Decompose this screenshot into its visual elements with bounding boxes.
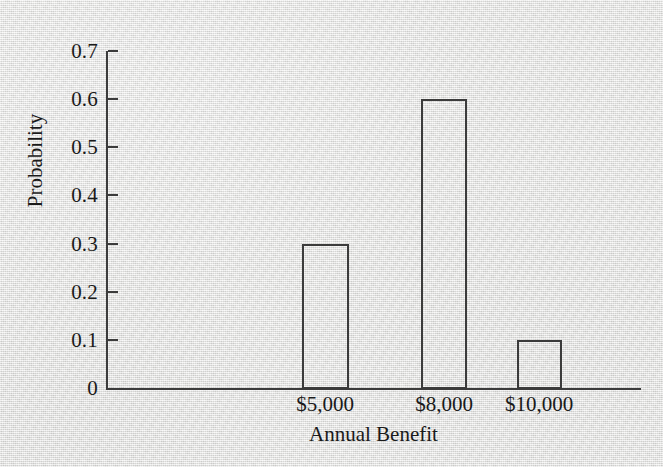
y-axis-tick-label: 0.6	[40, 89, 98, 110]
bar	[302, 244, 349, 389]
y-axis-tick	[108, 339, 118, 341]
y-axis-tick	[108, 194, 118, 196]
bar	[517, 340, 562, 389]
x-axis-tick-label: $5,000	[296, 394, 354, 415]
y-axis-title: Probability	[25, 66, 46, 256]
y-axis-tick	[108, 50, 118, 52]
y-axis-tick-label: 0.5	[40, 137, 98, 158]
y-axis-tick-label: 0.1	[40, 329, 98, 350]
x-axis-tick-label: $8,000	[415, 394, 473, 415]
y-axis-tick-label: 0.2	[40, 281, 98, 302]
y-axis-tick	[108, 146, 118, 148]
chart-figure: 00.10.20.30.40.50.60.7 Probability $5,00…	[0, 0, 663, 467]
y-axis-tick-label: 0.4	[40, 185, 98, 206]
y-axis-tick	[108, 291, 118, 293]
x-axis-tick-label: $10,000	[505, 394, 573, 415]
y-axis-tick	[108, 98, 118, 100]
y-axis-tick	[108, 243, 118, 245]
y-axis-tick-label: 0.3	[40, 233, 98, 254]
y-axis-tick-label: 0.7	[40, 41, 98, 62]
x-axis-title: Annual Benefit	[106, 424, 641, 445]
y-axis-tick-label: 0	[40, 378, 98, 399]
plot-area: 00.10.20.30.40.50.60.7 Probability $5,00…	[0, 0, 663, 467]
bar	[421, 99, 467, 389]
